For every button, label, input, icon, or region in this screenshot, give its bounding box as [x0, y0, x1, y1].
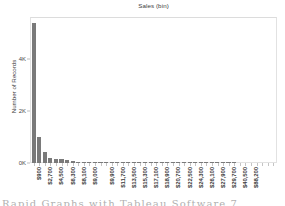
x-tick-mark [173, 163, 174, 166]
x-tick-mark [229, 163, 230, 166]
y-axis: Number of Records 0K2K4K [0, 17, 30, 163]
x-tick-mark [234, 163, 235, 166]
y-tick-label: 2K [19, 108, 26, 114]
x-tick-mark [134, 163, 135, 166]
histogram-chart: Sales (bin) Number of Records 0K2K4K $90… [0, 0, 285, 206]
x-tick-mark [201, 163, 202, 166]
x-tick-mark [145, 163, 146, 166]
x-tick-mark [67, 163, 68, 166]
x-tick-label: $4,500 [58, 167, 64, 185]
x-tick-label: $15,300 [142, 167, 148, 188]
x-tick-label: $900 [36, 167, 42, 180]
x-tick-mark [212, 163, 213, 166]
x-tick-label: $2,700 [47, 167, 53, 185]
x-tick-label: $22,500 [187, 167, 193, 188]
x-tick-label: $29,700 [231, 167, 237, 188]
x-tick-mark [112, 163, 113, 166]
x-tick-label: $9,000 [92, 167, 98, 185]
y-axis-title: Number of Records [10, 27, 17, 147]
x-tick-mark [206, 163, 207, 166]
bar [37, 137, 41, 163]
x-tick-mark [179, 163, 180, 166]
chart-title: Sales (bin) [30, 2, 277, 9]
x-tick-label: $40,500 [242, 167, 248, 188]
x-tick-mark [73, 163, 74, 166]
x-tick-mark [89, 163, 90, 166]
x-tick-mark [123, 163, 124, 166]
x-tick-mark [106, 163, 107, 166]
x-tick-mark [50, 163, 51, 166]
x-tick-mark [184, 163, 185, 166]
x-tick-label: $24,300 [198, 167, 204, 188]
y-tick-label: 0K [19, 160, 26, 166]
x-tick-mark [167, 163, 168, 166]
x-tick-mark [245, 163, 246, 166]
x-tick-label: $13,500 [131, 167, 137, 188]
x-tick-mark [218, 163, 219, 166]
x-tick-mark [56, 163, 57, 166]
x-tick-mark [273, 163, 274, 166]
x-tick-mark [101, 163, 102, 166]
footer-caption: Rapid Graphs with Tableau Software 7 [2, 198, 238, 206]
bar [43, 152, 47, 163]
x-tick-label: $18,900 [164, 167, 170, 188]
x-tick-mark [128, 163, 129, 166]
x-tick-label: $88,200 [253, 167, 259, 188]
x-tick-mark [262, 163, 263, 166]
y-tick-label: 4K [19, 56, 26, 62]
x-tick-mark [45, 163, 46, 166]
x-tick-label: $20,700 [175, 167, 181, 188]
x-tick-mark [140, 163, 141, 166]
x-tick-label: $6,300 [70, 167, 76, 185]
x-tick-label: $9,900 [109, 167, 115, 185]
bar-series [31, 18, 276, 163]
x-tick-mark [257, 163, 258, 166]
x-tick-label: $11,700 [120, 167, 126, 188]
x-tick-mark [151, 163, 152, 166]
x-tick-mark [78, 163, 79, 166]
bar [32, 23, 36, 163]
x-tick-label: $17,100 [153, 167, 159, 188]
x-tick-mark [268, 163, 269, 166]
x-tick-mark [162, 163, 163, 166]
x-tick-mark [240, 163, 241, 166]
x-tick-mark [251, 163, 252, 166]
x-tick-mark [95, 163, 96, 166]
x-tick-mark [62, 163, 63, 166]
x-tick-label: $26,100 [209, 167, 215, 188]
x-tick-mark [39, 163, 40, 166]
x-tick-label: $8,100 [81, 167, 87, 185]
x-tick-mark [84, 163, 85, 166]
x-tick-mark [117, 163, 118, 166]
x-tick-mark [195, 163, 196, 166]
x-tick-mark [223, 163, 224, 166]
x-tick-mark [190, 163, 191, 166]
x-tick-mark [156, 163, 157, 166]
x-tick-label: $27,900 [220, 167, 226, 188]
x-tick-mark [34, 163, 35, 166]
